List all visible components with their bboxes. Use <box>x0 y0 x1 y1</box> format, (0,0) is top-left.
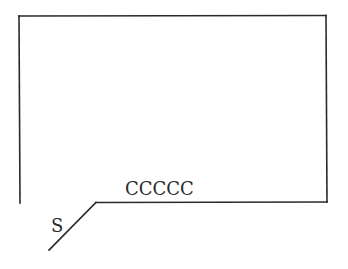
cccc-label: CCCCC <box>125 178 194 199</box>
top-edge <box>19 16 326 17</box>
diagram-canvas: CCCCC S <box>0 0 348 269</box>
right-edge <box>326 16 327 203</box>
bottom-edge <box>96 202 327 203</box>
left-edge <box>19 16 20 203</box>
s-label: S <box>51 215 63 236</box>
outline-shape <box>19 16 327 251</box>
